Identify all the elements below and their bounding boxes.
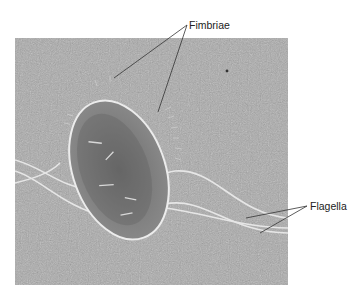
fimbriae-label: Fimbriae	[189, 19, 230, 31]
micrograph-image	[15, 38, 288, 285]
bacterium-illustration	[15, 38, 288, 285]
flagella-label: Flagella	[310, 200, 347, 212]
